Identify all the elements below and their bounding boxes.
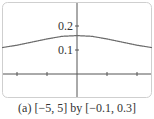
graph-window: 0.10.2 bbox=[0, 0, 154, 100]
y-tick-label: 0.1 bbox=[58, 43, 73, 57]
window-caption: (a) [−5, 5] by [−0.1, 0.3] bbox=[0, 101, 154, 116]
y-tick-label: 0.2 bbox=[58, 19, 73, 33]
